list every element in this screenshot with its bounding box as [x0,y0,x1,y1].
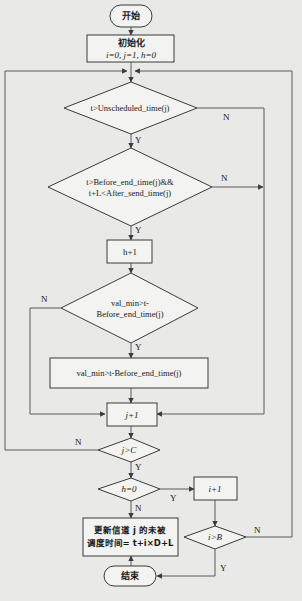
start-label: 开始 [122,11,140,22]
update-line2: 调度时间= t+i×D+L [87,538,174,549]
cond2-line1: t>Before_end_time(j)&& [86,177,173,188]
cond1-text: t>Unscheduled_time(j) [91,103,170,114]
step-val-text: val_min>t-Before_end_time(j) [77,368,182,379]
step-j-text: j+1 [125,410,138,421]
init-values: i=0, j=1, h=0 [106,50,156,61]
cond6-yes-label: Y [220,563,227,573]
cond2-yes-label: Y [135,225,142,235]
cond6-no-label: N [254,525,261,535]
cond5-text: h=0 [121,484,136,495]
update-line1: 更新信道 j 的未被 [94,525,166,536]
cond4-yes-label: Y [135,462,142,472]
cond1-no-label: N [223,112,230,122]
cond3-yes-label: Y [135,342,142,352]
cond3-line2: Before_end_time(j) [96,309,163,320]
cond4-text: j>C [122,445,137,456]
step-h-text: h+1 [123,247,137,258]
flowchart: 开始 初始化 i=0, j=1, h=0 t>Unscheduled_time(… [0,0,302,601]
init-title: 初始化 [118,38,145,49]
end-label: 结束 [121,571,139,582]
cond5-yes-label: Y [170,493,177,503]
cond5-no-label: N [135,503,142,513]
step-i-text: i+1 [208,484,221,495]
cond2-no-label: N [221,173,228,183]
cond2-line2: t+L<After_send_time(j) [89,188,171,199]
cond3-no-label: N [41,294,48,304]
cond4-no-label: N [75,437,82,447]
cond6-text: i>B [208,532,222,543]
cond1-yes-label: Y [135,135,142,145]
cond3-line1: val_min>t- [111,298,149,309]
